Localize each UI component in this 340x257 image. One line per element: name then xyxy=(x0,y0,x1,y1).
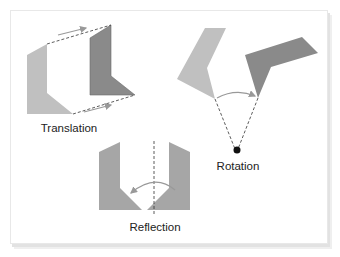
rotation-guide-left xyxy=(215,99,235,149)
translation-moved-shape xyxy=(90,25,135,95)
reflection-label: Reflection xyxy=(129,221,180,233)
rotation-pivot-point xyxy=(234,147,241,154)
translation-label: Translation xyxy=(41,122,97,134)
rotation-guide-right xyxy=(238,98,258,149)
rotation-label: Rotation xyxy=(217,160,260,172)
translation-group xyxy=(27,25,135,114)
rotation-arrow xyxy=(217,92,255,98)
reflection-mirrored-shape xyxy=(147,142,190,210)
translation-original-shape xyxy=(27,44,73,114)
translation-guide-bottom xyxy=(73,95,135,114)
rotation-original-shape xyxy=(177,28,226,99)
rotation-group xyxy=(177,28,318,154)
rotation-rotated-shape xyxy=(245,37,318,98)
translation-arrow-bottom xyxy=(84,105,111,112)
reflection-group xyxy=(99,141,190,216)
reflection-original-shape xyxy=(99,142,142,210)
